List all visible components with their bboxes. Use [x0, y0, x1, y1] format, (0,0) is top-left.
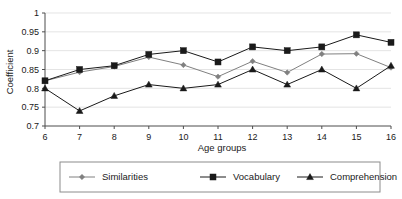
marker-triangle	[76, 108, 83, 114]
y-tick-label: 0.9	[26, 46, 39, 56]
line-chart: 0.70.750.80.850.90.951 67891011121314151…	[0, 0, 402, 199]
x-tick-label: 8	[112, 132, 117, 142]
legend-item-comprehension[interactable]: Comprehension	[297, 171, 397, 182]
series-similarities	[42, 51, 393, 84]
marker-square	[215, 59, 221, 65]
x-tick-label: 10	[178, 132, 188, 142]
y-tick-label: 0.8	[26, 84, 39, 94]
x-tick-label: 16	[386, 132, 396, 142]
legend-group: SimilaritiesVocabularyComprehension	[69, 171, 397, 182]
marker-square	[77, 67, 83, 73]
x-tick-label: 6	[42, 132, 47, 142]
legend-item-vocabulary[interactable]: Vocabulary	[200, 171, 280, 182]
x-tick-label: 11	[213, 132, 222, 142]
marker-square	[42, 78, 48, 84]
marker-square	[180, 48, 186, 54]
marker-diamond	[79, 174, 84, 179]
y-tick-label: 0.85	[21, 65, 39, 75]
marker-diamond	[250, 59, 255, 64]
y-tick-label: 1	[34, 8, 39, 18]
marker-diamond	[285, 70, 290, 75]
legend-item-similarities[interactable]: Similarities	[69, 171, 148, 182]
x-tick-label: 7	[77, 132, 82, 142]
marker-triangle	[249, 66, 256, 72]
marker-diamond	[319, 51, 324, 56]
marker-triangle	[353, 85, 360, 91]
x-tick-label: 15	[351, 132, 361, 142]
marker-diamond	[354, 51, 359, 56]
marker-square	[284, 48, 290, 54]
marker-triangle	[145, 81, 152, 87]
x-tick-label: 9	[146, 132, 151, 142]
x-axis-title: Age groups	[198, 142, 247, 153]
marker-diamond	[181, 62, 186, 67]
y-tick-label: 0.95	[21, 27, 39, 37]
legend-label: Similarities	[102, 171, 148, 182]
marker-triangle	[284, 81, 291, 87]
y-tick-label: 0.75	[21, 102, 39, 112]
x-tick-label: 13	[282, 132, 292, 142]
marker-square	[111, 63, 117, 69]
marker-square	[353, 32, 359, 38]
y-axis-title: Coefficient	[4, 49, 15, 94]
marker-square	[146, 51, 152, 57]
x-tick-label: 12	[248, 132, 258, 142]
marker-diamond	[215, 74, 220, 79]
marker-triangle	[215, 81, 222, 87]
x-axis-tick-labels: 678910111213141516	[42, 132, 396, 142]
marker-square	[210, 174, 216, 180]
series-group	[42, 32, 395, 114]
chart-figure: 0.70.750.80.850.90.951 67891011121314151…	[0, 0, 402, 199]
legend-label: Comprehension	[330, 171, 397, 182]
marker-triangle	[318, 66, 325, 72]
marker-square	[250, 44, 256, 50]
y-axis-tick-labels: 0.70.750.80.850.90.951	[21, 8, 39, 131]
marker-square	[319, 44, 325, 50]
marker-square	[388, 39, 394, 45]
legend-label: Vocabulary	[233, 171, 280, 182]
y-tick-label: 0.7	[26, 121, 39, 131]
marker-triangle	[388, 62, 395, 68]
x-tick-label: 14	[317, 132, 327, 142]
